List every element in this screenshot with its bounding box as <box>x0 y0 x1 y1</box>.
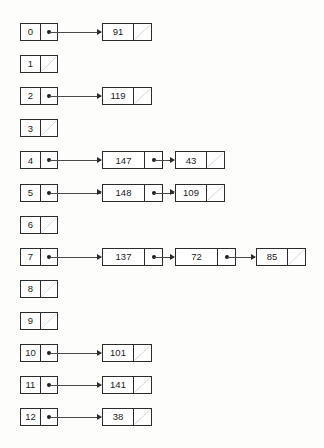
bucket-row: 2119 <box>0 87 324 109</box>
list-node[interactable]: 85 <box>256 248 306 266</box>
node-null-cell <box>134 377 151 393</box>
bucket-null-cell <box>41 281 57 297</box>
node-value-label: 137 <box>103 249 145 265</box>
node-null-cell <box>134 409 151 425</box>
bucket-index-label: 5 <box>21 185 41 201</box>
null-slash-icon <box>41 281 57 297</box>
bucket-row: 10101 <box>0 344 324 366</box>
bucket-index-label: 10 <box>21 345 41 361</box>
null-slash-icon <box>41 313 57 329</box>
list-node[interactable]: 141 <box>102 376 152 394</box>
list-node[interactable]: 101 <box>102 344 152 362</box>
bucket-8[interactable]: 8 <box>20 280 58 298</box>
node-value-label: 141 <box>103 377 134 393</box>
bucket-row: 1238 <box>0 408 324 430</box>
bucket-1[interactable]: 1 <box>20 55 58 73</box>
null-slash-icon <box>41 120 57 136</box>
chain-arrow <box>49 353 101 354</box>
bucket-null-cell <box>41 313 57 329</box>
bucket-index-label: 11 <box>21 377 41 393</box>
bucket-null-cell <box>41 120 57 136</box>
bucket-3[interactable]: 3 <box>20 119 58 137</box>
null-slash-icon <box>207 185 224 201</box>
node-value-label: 72 <box>176 249 218 265</box>
bucket-row: 3 <box>0 119 324 141</box>
node-value-label: 147 <box>103 152 145 168</box>
node-value-label: 38 <box>103 409 134 425</box>
bucket-row: 5148109 <box>0 184 324 206</box>
list-node[interactable]: 109 <box>175 184 225 202</box>
chain-arrow <box>49 96 101 97</box>
node-value-label: 43 <box>176 152 207 168</box>
node-value-label: 148 <box>103 185 145 201</box>
bucket-row: 71377285 <box>0 248 324 270</box>
bucket-row: 9 <box>0 312 324 334</box>
chain-arrow <box>49 385 101 386</box>
node-value-label: 109 <box>176 185 207 201</box>
list-node[interactable]: 91 <box>102 23 152 41</box>
chain-arrow <box>154 257 174 258</box>
bucket-index-label: 1 <box>21 56 41 72</box>
node-null-cell <box>134 88 151 104</box>
bucket-row: 11141 <box>0 376 324 398</box>
list-node[interactable]: 38 <box>102 408 152 426</box>
null-slash-icon <box>41 217 57 233</box>
list-node[interactable]: 119 <box>102 87 152 105</box>
node-null-cell <box>207 185 224 201</box>
node-value-label: 85 <box>257 249 288 265</box>
bucket-index-label: 3 <box>21 120 41 136</box>
chain-arrow <box>227 257 255 258</box>
bucket-row: 1 <box>0 55 324 77</box>
bucket-row: 091 <box>0 23 324 45</box>
null-slash-icon <box>134 88 151 104</box>
chain-arrow <box>49 32 101 33</box>
bucket-index-label: 4 <box>21 152 41 168</box>
node-value-label: 91 <box>103 24 134 40</box>
bucket-index-label: 9 <box>21 313 41 329</box>
node-null-cell <box>288 249 305 265</box>
node-null-cell <box>134 24 151 40</box>
bucket-index-label: 7 <box>21 249 41 265</box>
bucket-null-cell <box>41 56 57 72</box>
null-slash-icon <box>134 345 151 361</box>
null-slash-icon <box>134 377 151 393</box>
bucket-null-cell <box>41 217 57 233</box>
chain-arrow <box>154 193 174 194</box>
node-null-cell <box>207 152 224 168</box>
bucket-6[interactable]: 6 <box>20 216 58 234</box>
bucket-index-label: 0 <box>21 24 41 40</box>
chain-arrow <box>49 257 101 258</box>
chain-arrow <box>49 417 101 418</box>
bucket-index-label: 12 <box>21 409 41 425</box>
null-slash-icon <box>288 249 305 265</box>
chain-arrow <box>154 160 174 161</box>
bucket-index-label: 2 <box>21 88 41 104</box>
node-value-label: 119 <box>103 88 134 104</box>
null-slash-icon <box>207 152 224 168</box>
null-slash-icon <box>134 409 151 425</box>
bucket-9[interactable]: 9 <box>20 312 58 330</box>
chain-arrow <box>49 160 101 161</box>
chain-arrow <box>49 193 101 194</box>
node-value-label: 101 <box>103 345 134 361</box>
bucket-index-label: 8 <box>21 281 41 297</box>
null-slash-icon <box>41 56 57 72</box>
null-slash-icon <box>134 24 151 40</box>
list-node[interactable]: 43 <box>175 151 225 169</box>
bucket-index-label: 6 <box>21 217 41 233</box>
bucket-row: 414743 <box>0 151 324 173</box>
node-null-cell <box>134 345 151 361</box>
bucket-row: 6 <box>0 216 324 238</box>
hash-table-diagram: 0911211934147435148109671377285891010111… <box>0 0 324 448</box>
bucket-row: 8 <box>0 280 324 302</box>
